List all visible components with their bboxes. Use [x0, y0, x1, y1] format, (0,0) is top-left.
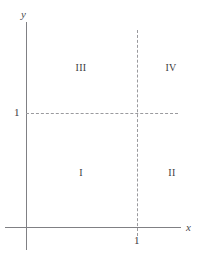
x-axis-label: x [186, 222, 191, 233]
vertical-dashed-gridline [137, 30, 138, 236]
y-axis-label: y [21, 9, 26, 20]
quadrant-label-upper-left: III [76, 63, 87, 73]
quadrant-label-upper-right: IV [165, 63, 176, 73]
horizontal-dashed-gridline [26, 113, 178, 114]
x-axis-line [5, 227, 181, 228]
coordinate-quadrant-diagram: y x 1 1 III IV I II [0, 0, 201, 258]
quadrant-label-lower-right: II [168, 168, 175, 178]
y-axis-line [26, 22, 27, 250]
y-axis-tick-label-1: 1 [14, 107, 20, 118]
quadrant-label-lower-left: I [79, 168, 83, 178]
x-axis-tick-label-1: 1 [134, 235, 140, 246]
